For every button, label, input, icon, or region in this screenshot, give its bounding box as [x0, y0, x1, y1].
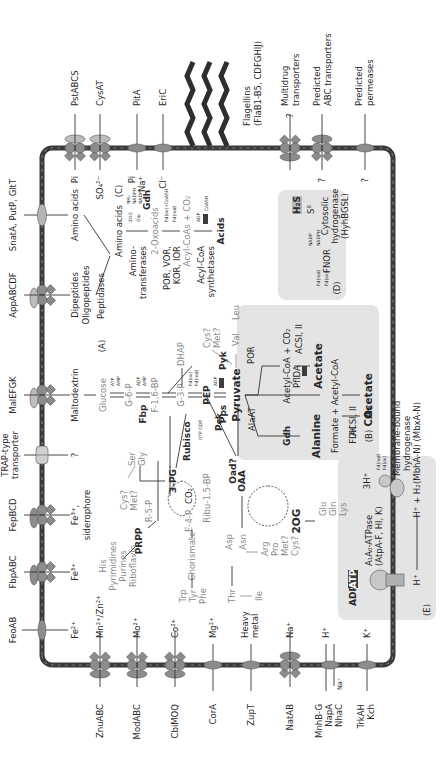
label-cytosolic: Cytosolic [320, 196, 330, 235]
transporter-natab: NatAB Na⁺ [280, 622, 301, 731]
label-atpase-subunits: (AtpA-F, HI, K) [374, 506, 384, 566]
enzyme-pck: Pck [214, 412, 224, 431]
enzyme-alaat: AlaAT [247, 406, 257, 431]
substrate-pi-2: Pi [127, 176, 137, 183]
substrate-siderophore: siderophore [82, 490, 92, 540]
transporter-cbimoq: CbiMOQ Co²⁺ [165, 619, 186, 738]
cofactor-fdox-coash: Fd(ox)+CoASH [164, 189, 169, 222]
node-g6p: G-6-P [124, 383, 134, 406]
cofactor-fdox: Fd(ox) [188, 372, 193, 386]
enzyme-acsi: ACSI, II [294, 324, 304, 354]
atp-badge-acs1 [302, 366, 307, 376]
cofactor-2og: 2OG [128, 212, 133, 222]
node-oaa: OAA [237, 470, 247, 491]
box-d-fdred: Fd(red) [316, 269, 321, 286]
permease-subunit [37, 395, 47, 405]
node-trp: Trp [178, 590, 188, 604]
amino-acid-catabolism: Peptidases Amino acids Amino- transferas… [84, 188, 226, 319]
enzyme-gdh-2: Gdh [282, 426, 292, 446]
label-fbpabc: FbpABC [8, 555, 18, 588]
substrate-mn-zn: Mn²⁺/Zn²⁺ [95, 595, 105, 638]
substrate-heavy: Heavy [240, 611, 250, 638]
permease-subunit [65, 143, 75, 153]
permease-subunit [280, 143, 290, 153]
node-co2: CO₂ [184, 488, 194, 504]
substrate-oligopeptides: Oligopeptides [81, 265, 91, 324]
label-mnhb-g: MnhB-G [314, 704, 324, 738]
label-natab: NatAB [285, 704, 295, 731]
label-flagellins-2: (FlaB1-B5, CDFGHIJ) [253, 41, 263, 126]
node-h-plus: H⁺ [412, 575, 422, 586]
substrate-k: K⁺ [362, 628, 372, 638]
transporter-mnh: MnhB-G NapA NhaC H⁺ Na⁺ [314, 627, 344, 738]
label-nhac: NhaC [334, 704, 344, 727]
substrate-mo: Mo²⁺ [132, 618, 142, 638]
node-arg: Arg [260, 541, 270, 556]
node-lys: Lys [338, 502, 348, 516]
node-asn: Asn [238, 534, 248, 550]
node-purines: Purines [118, 550, 128, 582]
hydrogenase-head [379, 475, 391, 487]
node-gly: Gly [137, 452, 147, 466]
substrate-mg: Mg²⁺ [208, 617, 218, 638]
node-met-3: Met? [212, 328, 222, 348]
diagram-svg: FeoAB Fe²⁺ FbpABC Fe³⁺ FepBCD Fe³⁺, side… [0, 0, 448, 766]
label-eric: EriC [158, 89, 168, 106]
binding-protein [30, 565, 38, 585]
section-d-label: (D) [332, 281, 342, 294]
box-d-nadp: NADP [308, 233, 313, 246]
cofactor-adp-2: ADP [213, 376, 218, 386]
node-s0: S⁰ [306, 205, 316, 214]
atp-badge-pyk [219, 378, 224, 388]
enzyme-rubisco: Rubisco [182, 421, 192, 461]
transporter-znuabc: ZnuABC Mn²⁺/Zn²⁺ [90, 595, 111, 738]
substrate-fe3: Fe³⁺ [70, 563, 80, 581]
binding-protein [30, 508, 38, 528]
cofactor-amp-1: AMP [116, 376, 121, 386]
label-modabc: ModABC [132, 704, 142, 739]
node-formate-acetyl-coa: Formate + Acetyl-CoA [330, 359, 340, 453]
permease-subunit [322, 143, 332, 153]
substrate-pi: Pi [70, 176, 80, 183]
cofactor-atp-1: ATP [110, 378, 115, 386]
transporter-pstabcs: PstABCS Pi [65, 70, 86, 183]
atp-badge-acyl [203, 214, 208, 224]
node-dhap: DHAP [176, 342, 186, 366]
node-glucose: Glucose [98, 378, 108, 412]
flagellum-1 [187, 62, 193, 146]
permease-subunit [37, 285, 47, 295]
permease-subunit [90, 143, 100, 153]
transporter-cora: CorA Mg²⁺ [204, 617, 222, 724]
permease-subunit [137, 660, 147, 670]
transporter-predicted-abc: Predicted ABC transporters ? [312, 33, 333, 183]
label-membrane-bound: Membrane-bound [392, 401, 402, 476]
substrate-co: Co²⁺ [170, 619, 180, 638]
permease-subunit [280, 660, 290, 670]
node-chorismate: Chorismate [187, 532, 197, 581]
transporter-trkah: TrkAH Kch K⁺ [356, 628, 376, 730]
pentose-rubisco-pathway: 3-PG Rubisco CO₂ Ribu-1,5-BP Ser Gly Cys… [98, 414, 212, 604]
label-aminotransferases-1: Amino- [128, 246, 138, 276]
node-2-oxoacids: 2-Oxoacids [150, 207, 160, 255]
node-h-h2: H⁺ + H₂ [412, 484, 422, 517]
label-pita: PitA [132, 89, 142, 106]
permease-subunit [100, 660, 110, 670]
transporter-appabcdf: AppABCDF Dipeptides Oligopeptides [8, 265, 91, 324]
substrate-amino-acids: Amino acids [70, 189, 80, 241]
node-acids: Acids [216, 217, 226, 244]
substrate-fe3-b: Fe³⁺, [70, 505, 80, 525]
transporter-pita: PitA Pi Na⁺ [127, 89, 147, 192]
node-ribu15bp: Ribu-1,5-BP [202, 473, 212, 522]
substrate-dipeptides: Dipeptides [70, 272, 80, 318]
label-malefgk: MalEFGK [8, 376, 18, 414]
substrate-maltodextrin: Maltodextrin [70, 368, 80, 422]
enzyme-fdh: FDH [348, 426, 358, 444]
node-alanine: Alanine [310, 414, 322, 458]
substrate-na-3: Na⁺ [336, 678, 344, 690]
hydrogenase-body [390, 479, 404, 497]
permease-subunit [37, 295, 47, 305]
label-acyl-coa: Acyl-CoA [196, 246, 206, 284]
node-3pg: 3-PG [168, 469, 178, 493]
enzyme-gdh: Gdh [142, 190, 152, 210]
section-b-label: (B) [364, 430, 374, 442]
